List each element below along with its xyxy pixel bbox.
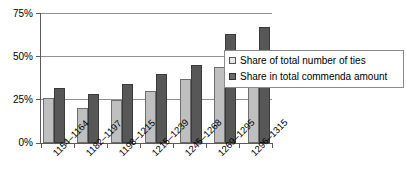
x-tick-mark — [239, 143, 240, 148]
bar-group — [43, 13, 65, 143]
bar-amount[interactable] — [54, 88, 65, 143]
y-axis: 75% 50% 25% 0% — [0, 0, 38, 196]
dark-gray-swatch-icon — [229, 73, 236, 80]
y-tick-label-50: 50% — [13, 52, 33, 62]
x-tick-mark — [206, 143, 207, 148]
legend-item-amount[interactable]: Share in total commenda amount — [229, 71, 399, 83]
x-tick-mark — [140, 143, 141, 148]
x-tick-mark — [74, 143, 75, 148]
legend-label-amount: Share in total commenda amount — [240, 71, 387, 83]
y-tick-label-25: 25% — [13, 95, 33, 105]
y-tick-label-0: 0% — [19, 138, 33, 148]
chart-legend: Share of total number of ties Share in t… — [224, 50, 404, 88]
x-tick-mark — [173, 143, 174, 148]
x-tick-mark — [41, 143, 42, 148]
legend-item-ties[interactable]: Share of total number of ties — [229, 55, 399, 67]
legend-label-ties: Share of total number of ties — [240, 55, 366, 67]
x-tick-mark — [272, 143, 273, 148]
bar-ties[interactable] — [145, 91, 156, 143]
x-tick-mark — [107, 143, 108, 148]
light-gray-swatch-icon — [229, 57, 236, 64]
bar-chart: 75% 50% 25% 0% 1154–11641182–11971198–12… — [0, 0, 406, 196]
y-tick-label-75: 75% — [13, 9, 33, 19]
bar-ties[interactable] — [43, 98, 54, 143]
